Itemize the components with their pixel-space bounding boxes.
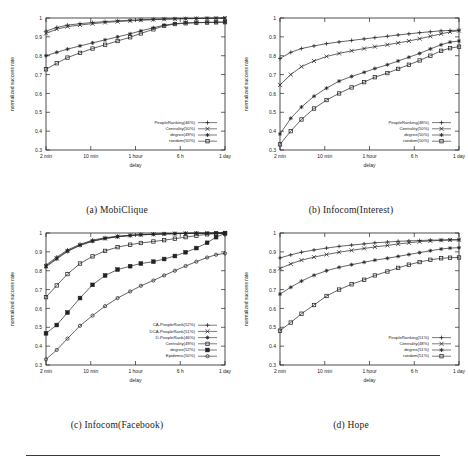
svg-text:Centrality(48%): Centrality(48%) — [399, 341, 429, 346]
panel-d: 0.30.40.50.60.70.80.912 min10 min1 hour6… — [234, 215, 468, 430]
svg-text:1 hour: 1 hour — [128, 368, 143, 374]
svg-text:degree(50%): degree(50%) — [404, 132, 429, 137]
svg-text:1 day: 1 day — [453, 153, 466, 159]
svg-text:0.8: 0.8 — [35, 53, 42, 59]
svg-text:normalized success rate: normalized success rate — [243, 272, 249, 326]
svg-text:6 h: 6 h — [177, 368, 184, 374]
plot-c: 0.30.40.50.60.70.80.912 min10 min1 hour6… — [0, 215, 234, 405]
panel-a: 0.30.40.50.60.70.80.912 min10 min1 hour6… — [0, 0, 234, 215]
svg-text:6 h: 6 h — [411, 368, 418, 374]
chart-b-svg: 0.30.40.50.60.70.80.912 min10 min1 hour6… — [234, 0, 468, 190]
chart-a-svg: 0.30.40.50.60.70.80.912 min10 min1 hour6… — [0, 0, 234, 190]
panel-b: 0.30.40.50.60.70.80.912 min10 min1 hour6… — [234, 0, 468, 215]
svg-text:1 day: 1 day — [453, 368, 466, 374]
svg-text:normalized success rate: normalized success rate — [243, 57, 249, 111]
svg-text:1 hour: 1 hour — [362, 153, 377, 159]
svg-text:0.4: 0.4 — [269, 128, 276, 134]
svg-text:0.8: 0.8 — [35, 268, 42, 274]
svg-text:0.9: 0.9 — [35, 249, 42, 255]
svg-text:0.8: 0.8 — [269, 53, 276, 59]
svg-text:random(50%): random(50%) — [169, 138, 196, 143]
svg-text:1: 1 — [273, 15, 276, 21]
svg-text:Centrality(49%): Centrality(49%) — [165, 341, 195, 346]
svg-text:degree(51%): degree(51%) — [404, 347, 429, 352]
panel-b-caption: (b) Infocom(Interest) — [234, 205, 468, 215]
svg-text:1: 1 — [39, 230, 42, 236]
svg-text:delay: delay — [364, 377, 376, 383]
svg-text:10 min: 10 min — [83, 368, 98, 374]
svg-text:1: 1 — [273, 230, 276, 236]
svg-text:1: 1 — [39, 15, 42, 21]
svg-text:DCA-PeopleRank(51%): DCA-PeopleRank(51%) — [150, 329, 196, 334]
svg-text:2 min: 2 min — [274, 153, 286, 159]
svg-text:6 h: 6 h — [411, 153, 418, 159]
svg-text:6 h: 6 h — [177, 153, 184, 159]
panel-c: 0.30.40.50.60.70.80.912 min10 min1 hour6… — [0, 215, 234, 430]
svg-text:delay: delay — [130, 162, 142, 168]
svg-text:0.5: 0.5 — [35, 324, 42, 330]
svg-text:0.4: 0.4 — [269, 343, 276, 349]
svg-text:delay: delay — [130, 377, 142, 383]
svg-text:normalized success rate: normalized success rate — [9, 57, 15, 111]
svg-text:1 hour: 1 hour — [362, 368, 377, 374]
svg-text:0.9: 0.9 — [35, 34, 42, 40]
svg-text:0.4: 0.4 — [35, 128, 42, 134]
svg-text:random(51%): random(51%) — [403, 353, 430, 358]
svg-text:0.5: 0.5 — [269, 109, 276, 115]
chart-d-svg: 0.30.40.50.60.70.80.912 min10 min1 hour6… — [234, 215, 468, 405]
svg-text:0.7: 0.7 — [35, 72, 42, 78]
svg-text:0.6: 0.6 — [35, 91, 42, 97]
panel-d-caption: (d) Hope — [234, 420, 468, 430]
svg-text:Epidemic(50%): Epidemic(50%) — [166, 353, 196, 358]
plot-b: 0.30.40.50.60.70.80.912 min10 min1 hour6… — [234, 0, 468, 190]
panel-c-caption: (c) Infocom(Facebook) — [0, 420, 234, 430]
svg-text:0.9: 0.9 — [269, 249, 276, 255]
svg-text:degree(52%): degree(52%) — [170, 347, 195, 352]
page-footer-rule — [26, 455, 440, 456]
svg-text:PeopleRanking(51%): PeopleRanking(51%) — [388, 335, 429, 340]
svg-text:1 hour: 1 hour — [128, 153, 143, 159]
svg-text:10 min: 10 min — [317, 368, 332, 374]
svg-text:0.6: 0.6 — [269, 306, 276, 312]
svg-text:0.7: 0.7 — [269, 287, 276, 293]
svg-text:0.4: 0.4 — [35, 343, 42, 349]
svg-text:0.7: 0.7 — [269, 72, 276, 78]
figure-page: 0.30.40.50.60.70.80.912 min10 min1 hour6… — [0, 0, 468, 467]
svg-text:normalized success rate: normalized success rate — [9, 272, 15, 326]
svg-text:2 min: 2 min — [40, 368, 52, 374]
svg-text:CA-PeopleRank(52%): CA-PeopleRank(52%) — [153, 322, 196, 327]
svg-text:0.8: 0.8 — [269, 268, 276, 274]
plot-d: 0.30.40.50.60.70.80.912 min10 min1 hour6… — [234, 215, 468, 405]
svg-text:PeopleRanking(46%): PeopleRanking(46%) — [154, 120, 195, 125]
svg-text:2 min: 2 min — [40, 153, 52, 159]
figure-grid: 0.30.40.50.60.70.80.912 min10 min1 hour6… — [0, 0, 468, 430]
svg-text:1 day: 1 day — [219, 368, 232, 374]
panel-a-caption: (a) MobiClique — [0, 205, 234, 215]
svg-text:random(50%): random(50%) — [403, 138, 430, 143]
svg-text:0.9: 0.9 — [269, 34, 276, 40]
svg-text:0.5: 0.5 — [35, 109, 42, 115]
svg-text:Centrality(50%): Centrality(50%) — [165, 126, 195, 131]
svg-text:Centrality(50%): Centrality(50%) — [399, 126, 429, 131]
svg-text:1 day: 1 day — [219, 153, 232, 159]
svg-text:delay: delay — [364, 162, 376, 168]
svg-text:PeopleRanking(48%): PeopleRanking(48%) — [388, 120, 429, 125]
svg-text:10 min: 10 min — [83, 153, 98, 159]
svg-text:0.6: 0.6 — [269, 91, 276, 97]
chart-c-svg: 0.30.40.50.60.70.80.912 min10 min1 hour6… — [0, 215, 234, 405]
svg-text:0.7: 0.7 — [35, 287, 42, 293]
plot-a: 0.30.40.50.60.70.80.912 min10 min1 hour6… — [0, 0, 234, 190]
svg-text:0.5: 0.5 — [269, 324, 276, 330]
svg-text:10 min: 10 min — [317, 153, 332, 159]
svg-text:0.6: 0.6 — [35, 306, 42, 312]
svg-text:D-PeopleRank(46%): D-PeopleRank(46%) — [156, 335, 196, 340]
svg-text:2 min: 2 min — [274, 368, 286, 374]
svg-text:degree(49%): degree(49%) — [170, 132, 195, 137]
